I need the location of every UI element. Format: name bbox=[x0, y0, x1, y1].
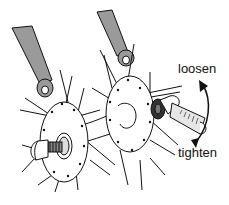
tighten-label: tighten bbox=[178, 146, 217, 159]
right-flange bbox=[106, 76, 154, 152]
hub-adjustment-illustration: loosen tighten bbox=[0, 0, 229, 205]
left-fork-blade bbox=[12, 26, 53, 97]
hub-drawing bbox=[0, 0, 229, 205]
right-fork-blade bbox=[97, 10, 134, 66]
loosen-label: loosen bbox=[178, 62, 216, 75]
